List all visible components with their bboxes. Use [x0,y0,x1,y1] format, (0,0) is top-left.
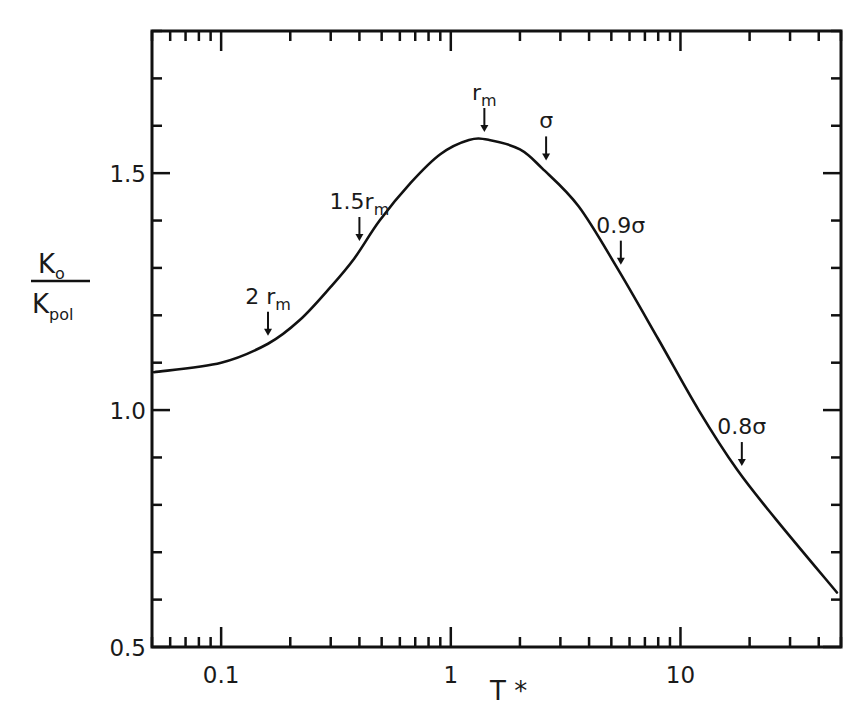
arrowhead-icon [355,234,363,241]
tick-labels: 0.11100.51.01.5 [109,161,695,688]
y-tick-label: 1.5 [109,161,146,187]
x-tick-label: 10 [666,662,695,688]
annotations: 2 rm1.5rmrmσ0.9σ0.8σ [245,80,766,466]
arrowhead-icon [617,258,625,265]
y-axis-title: Ko Kpol [31,249,90,324]
annotation-label: 0.9σ [596,213,645,238]
annotation: 0.8σ [717,414,766,466]
arrowhead-icon [480,125,488,132]
annotation: rm [472,80,497,132]
annotation: σ [539,108,553,160]
annotation-label: σ [539,108,553,133]
plot-frame [152,31,841,647]
annotation-label: 2 rm [245,284,291,314]
annotation: 1.5rm [330,189,390,241]
y-title-numerator: Ko [38,249,65,283]
annotation-label: 0.8σ [717,414,766,439]
x-tick-label: 0.1 [203,662,240,688]
y-tick-label: 0.5 [109,635,146,661]
arrowhead-icon [542,153,550,160]
annotation: 0.9σ [596,213,645,265]
x-axis-title: T * [489,676,527,706]
data-curve [154,138,837,592]
x-tick-label: 1 [443,662,458,688]
annotation-label: rm [472,80,497,110]
arrowhead-icon [738,459,746,466]
y-title-denominator: Kpol [32,289,73,324]
annotation-label: 1.5rm [330,189,390,219]
y-tick-label: 1.0 [109,398,146,424]
chart: 0.11100.51.01.5 2 rm1.5rmrmσ0.9σ0.8σ Ko … [0,0,867,728]
arrowhead-icon [264,329,272,336]
axis-ticks [152,31,841,647]
annotation: 2 rm [245,284,291,336]
